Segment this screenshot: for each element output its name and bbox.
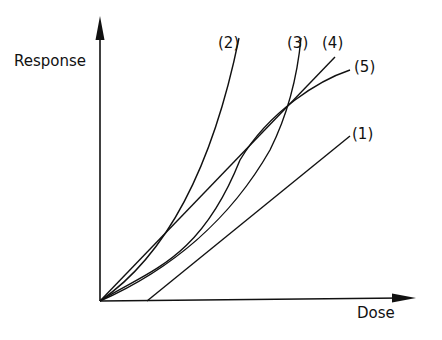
curve-5 [100, 70, 350, 301]
curve-label-5: (5) [354, 60, 375, 75]
curves [100, 38, 350, 301]
curve-label-1: (1) [352, 127, 373, 142]
curve-4 [100, 57, 335, 301]
curve-label-4: (4) [322, 36, 343, 51]
x-axis-arrow-icon [392, 294, 416, 303]
y-axis-label: Response [14, 54, 86, 69]
curve-label-2: (2) [218, 36, 239, 51]
curve-label-3: (3) [287, 36, 308, 51]
x-axis-label: Dose [357, 306, 395, 321]
curve-3 [100, 38, 301, 301]
y-axis-arrow-icon [96, 16, 105, 40]
curve-1 [147, 136, 350, 301]
x-axis [100, 298, 402, 301]
